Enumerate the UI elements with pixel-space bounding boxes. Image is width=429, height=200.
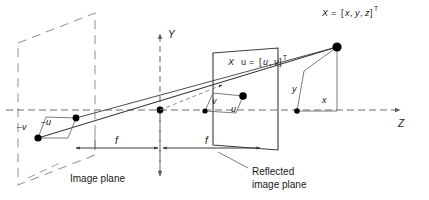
image-plane-outline bbox=[18, 13, 95, 185]
reflected-u-label: u bbox=[231, 104, 236, 114]
neg-u-label: –u bbox=[40, 117, 51, 127]
image-point-label-comma: , bbox=[269, 57, 272, 67]
image-point-corner-marker bbox=[73, 115, 80, 122]
image-point-marker bbox=[34, 134, 41, 141]
world-y-label: y bbox=[291, 84, 297, 94]
image-point-label-u: u bbox=[241, 57, 246, 67]
reflected-plane-caption-line2: image plane bbox=[252, 179, 307, 190]
diagram-canvas: Y Z X = [ x , y , z ] T X u = [ u , v ] … bbox=[0, 0, 429, 200]
image-plane-leader bbox=[28, 162, 62, 178]
reflected-point-marker bbox=[239, 92, 247, 100]
world-point-label-bracket-open: [ bbox=[341, 8, 344, 18]
focal-right-label: f bbox=[205, 135, 209, 146]
image-point-label-bracket-close: ] bbox=[279, 57, 282, 67]
world-point-label-transpose: T bbox=[374, 5, 378, 12]
world-point-label-equals: = bbox=[331, 8, 336, 18]
reflected-plane-caption-line1: Reflected bbox=[252, 166, 294, 177]
image-plane-quad bbox=[18, 13, 95, 185]
image-point-label-equals: = bbox=[249, 57, 254, 67]
projection-diagram: Y Z X = [ x , y , z ] T X u = [ u , v ] … bbox=[0, 0, 429, 200]
image-plane-caption: Image plane bbox=[70, 173, 125, 184]
image-point-label-u-comp: u bbox=[263, 57, 268, 67]
image-point-label-X: X bbox=[227, 57, 235, 67]
world-point-label-comma2: , bbox=[360, 8, 363, 18]
image-point-label-transpose: T bbox=[283, 54, 287, 61]
world-point-label: X = [ x , y , z ] T bbox=[321, 5, 378, 18]
reflected-plane-leader bbox=[218, 152, 248, 168]
y-axis-label: Y bbox=[168, 29, 176, 40]
world-point-label-X: X bbox=[321, 8, 329, 18]
neg-v-label: –v bbox=[16, 122, 27, 132]
image-point-label-bracket-open: [ bbox=[259, 57, 262, 67]
world-foot-marker bbox=[294, 108, 300, 114]
world-point-label-comma1: , bbox=[350, 8, 353, 18]
reflected-v-label: v bbox=[212, 96, 217, 106]
world-point-marker bbox=[332, 42, 341, 51]
world-point-label-bracket-close: ] bbox=[370, 8, 373, 18]
z-axis-label: Z bbox=[397, 118, 405, 129]
world-x-label: x bbox=[321, 95, 327, 105]
focal-left-label: f bbox=[115, 135, 119, 146]
reflected-foot-marker bbox=[202, 108, 207, 113]
